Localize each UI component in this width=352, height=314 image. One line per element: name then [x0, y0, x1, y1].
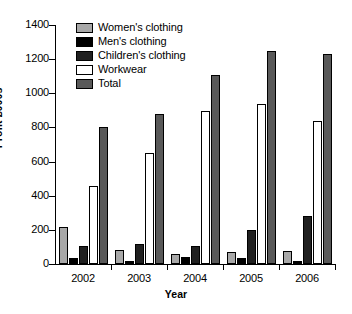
bar [125, 261, 134, 264]
bar [89, 186, 98, 264]
y-axis-tick-label: 400 [31, 190, 49, 201]
y-axis-tick-label: 1000 [25, 87, 49, 98]
y-axis-tick [49, 230, 55, 231]
bar [283, 251, 292, 264]
x-axis-tick-label: 2006 [280, 272, 334, 284]
bar [227, 252, 236, 264]
y-axis-tick-label: 200 [31, 224, 49, 235]
y-axis-tick-label: 600 [31, 156, 49, 167]
x-axis-tick-label: 2005 [224, 272, 278, 284]
bar [267, 51, 276, 264]
x-axis-tick [335, 264, 336, 270]
bar [59, 227, 68, 264]
y-axis-tick [49, 264, 55, 265]
bar [237, 258, 246, 264]
legend-item: Men's clothing [76, 35, 186, 48]
bar [191, 246, 200, 264]
bar [69, 258, 78, 264]
bar [145, 153, 154, 264]
bar [99, 127, 108, 264]
bar [115, 250, 124, 265]
x-axis-tick-label: 2002 [56, 272, 110, 284]
bar [155, 114, 164, 264]
legend-item: Total [76, 77, 186, 90]
legend-swatch-icon [76, 65, 93, 75]
y-axis-tick-label: 1400 [25, 19, 49, 30]
bar [79, 246, 88, 264]
bar [293, 261, 302, 264]
legend-label: Children's clothing [98, 50, 186, 61]
x-axis-title: Year [0, 288, 352, 300]
y-axis-tick [49, 162, 55, 163]
bar [323, 54, 332, 264]
bar-chart: Profit £000s Year 0200400600800100012001… [0, 0, 352, 314]
x-axis-tick [167, 264, 168, 270]
y-axis-tick [49, 93, 55, 94]
y-axis-tick [49, 127, 55, 128]
y-axis-tick [49, 59, 55, 60]
legend-item: Workwear [76, 63, 186, 76]
y-axis-title: Profit £000s [0, 88, 4, 149]
bar [201, 111, 210, 264]
y-axis-tick [49, 25, 55, 26]
legend-label: Total [98, 78, 121, 89]
bar [171, 254, 180, 264]
legend-swatch-icon [76, 37, 93, 47]
x-axis-tick-label: 2004 [168, 272, 222, 284]
y-axis-tick [49, 196, 55, 197]
y-axis-tick-label: 0 [43, 258, 49, 269]
bar [211, 75, 220, 264]
x-axis-tick [279, 264, 280, 270]
legend-label: Workwear [98, 64, 147, 75]
legend-item: Children's clothing [76, 49, 186, 62]
legend-swatch-icon [76, 51, 93, 61]
y-axis-tick-label: 1200 [25, 53, 49, 64]
legend-swatch-icon [76, 23, 93, 33]
bar [181, 257, 190, 264]
x-axis-line [55, 264, 336, 265]
bar [303, 216, 312, 264]
bar [257, 104, 266, 264]
legend-item: Women's clothing [76, 21, 186, 34]
bar [313, 121, 322, 264]
y-axis-tick-label: 800 [31, 121, 49, 132]
x-axis-tick [111, 264, 112, 270]
bar [247, 230, 256, 264]
x-axis-tick-label: 2003 [112, 272, 166, 284]
legend-label: Men's clothing [98, 36, 167, 47]
legend-label: Women's clothing [98, 22, 183, 33]
chart-legend: Women's clothingMen's clothingChildren's… [76, 21, 186, 91]
legend-swatch-icon [76, 79, 93, 89]
x-axis-tick [223, 264, 224, 270]
bar [135, 244, 144, 264]
